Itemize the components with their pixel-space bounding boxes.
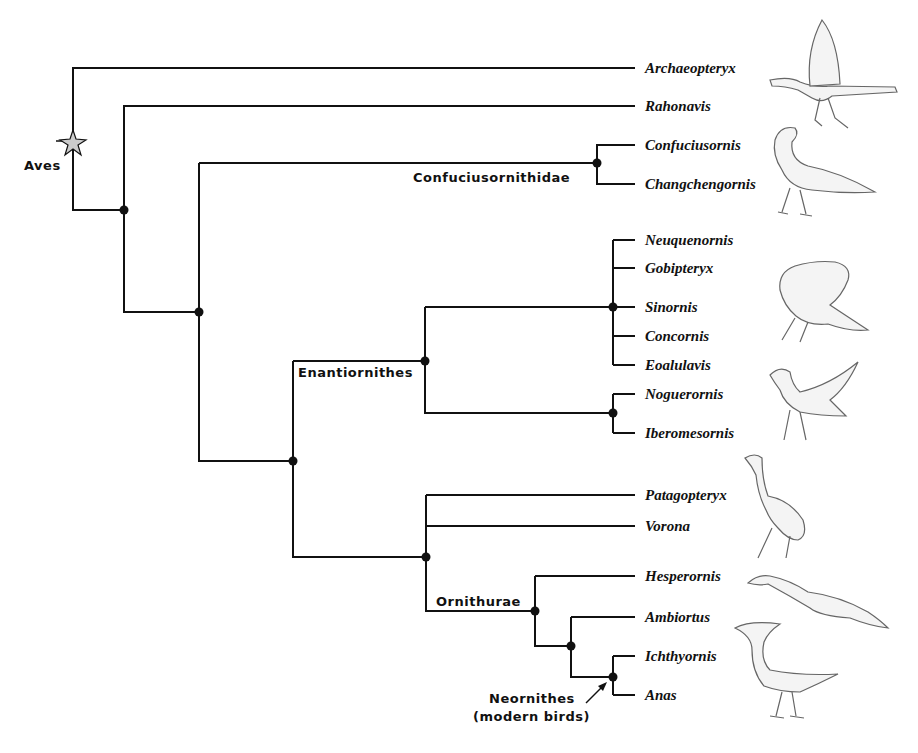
taxon-label: Concornis	[645, 328, 709, 344]
clade-label-ornithurae: Ornithurae	[436, 594, 521, 609]
clade-label-confuciusornithidae: Confuciusornithidae	[413, 170, 570, 185]
archaeopteryx-illustration	[770, 20, 897, 128]
arrow-icon	[586, 682, 607, 703]
taxon-label: Sinornis	[645, 299, 698, 315]
hesperornis-illustration	[748, 576, 888, 628]
taxon-label: Gobipteryx	[645, 260, 714, 276]
taxon-label: Hesperornis	[644, 568, 721, 584]
confuciusornis-illustration	[774, 128, 875, 217]
patagopteryx-illustration	[745, 455, 805, 558]
node-dot	[531, 607, 540, 616]
sinornis-illustration	[780, 262, 868, 343]
taxon-labels: Archaeopteryx Rahonavis Confuciusornis C…	[644, 60, 756, 703]
clade-label-enantiornithes: Enantiornithes	[298, 365, 413, 380]
taxon-label: Rahonavis	[644, 98, 711, 114]
node-dot	[195, 308, 204, 317]
node-dot	[593, 159, 602, 168]
taxon-label: Archaeopteryx	[644, 60, 736, 76]
taxon-label: Anas	[644, 687, 677, 703]
taxon-label: Patagopteryx	[645, 487, 727, 503]
node-dot	[609, 673, 618, 682]
taxon-label: Ichthyornis	[644, 648, 717, 664]
taxon-label: Neuquenornis	[644, 232, 734, 248]
node-dot	[609, 409, 618, 418]
taxon-label: Noguerornis	[644, 386, 724, 402]
aves-star-icon	[56, 130, 86, 155]
ichthyornis-illustration	[735, 623, 838, 718]
taxon-label: Confuciusornis	[645, 137, 741, 153]
taxon-label: Vorona	[645, 518, 691, 534]
clade-label-aves: Aves	[24, 158, 61, 173]
cladogram: Aves Confuciusornithidae Enantiornithes …	[0, 0, 918, 753]
node-dot	[422, 553, 431, 562]
taxon-label: Eoalulavis	[644, 357, 711, 373]
taxon-label: Changchengornis	[645, 176, 756, 192]
node-dot	[567, 642, 576, 651]
noguerornis-illustration	[770, 362, 858, 440]
node-dot	[120, 206, 129, 215]
clade-label-neornithes: Neornithes	[489, 691, 575, 706]
node-dot	[421, 357, 430, 366]
taxon-label: Ambiortus	[644, 609, 710, 625]
tree-nodes	[120, 159, 618, 682]
node-dot	[609, 303, 618, 312]
taxon-label: Iberomesornis	[644, 425, 734, 441]
node-dot	[289, 457, 298, 466]
clade-label-modern-birds: (modern birds)	[473, 709, 590, 724]
tree-branches	[73, 68, 635, 695]
